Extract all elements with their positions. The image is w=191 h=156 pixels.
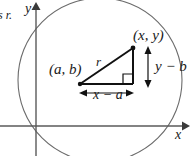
y-axis-arrowhead [32, 2, 41, 10]
circle-vertex-dot [131, 46, 136, 51]
point-xy-label: (x, y) [133, 28, 164, 43]
point-ab-label: (a, b) [49, 62, 82, 77]
hypotenuse-line [80, 48, 133, 84]
horizontal-dimension-arrow-left [79, 90, 87, 97]
radius-label: r [96, 55, 101, 68]
circle-shape [18, 0, 182, 156]
vertical-dimension-arrow-top [145, 46, 152, 54]
center-vertex-dot [78, 82, 82, 86]
x-axis-arrowhead [182, 122, 190, 131]
figure-canvas [0, 0, 191, 156]
horizontal-dimension-arrow-right [126, 90, 134, 97]
y-axis-label: y [25, 2, 31, 16]
right-angle-icon [123, 74, 133, 84]
x-axis-label: x [175, 128, 181, 142]
horizontal-leg-label: x − a [93, 88, 123, 102]
vertical-dimension-arrow-bottom [145, 80, 152, 88]
margin-text-fragment: s r. [0, 9, 12, 21]
vertical-leg-label: y − b [155, 59, 187, 74]
circle-distance-formula-figure: s r. y x (x, y) (a, b) r y − b x − a [0, 0, 191, 156]
